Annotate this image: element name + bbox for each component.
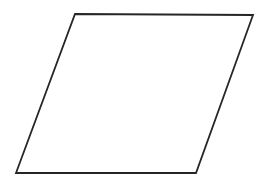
diagram-canvas (0, 0, 266, 189)
parallelogram-shape (16, 14, 253, 173)
parallelogram-figure (0, 0, 266, 189)
